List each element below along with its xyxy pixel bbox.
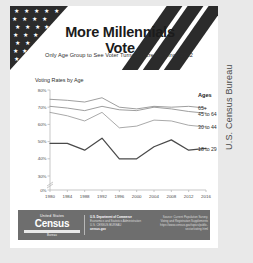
x-axis-tick-label: 1980 — [45, 194, 55, 199]
legend-title: Ages — [198, 92, 218, 98]
y-axis-tick-label: 70% — [38, 105, 47, 110]
x-axis-tick-label: 1988 — [80, 194, 90, 199]
line-chart: 0%30%40%50%60%70%80%19801984198819921996… — [34, 86, 212, 208]
x-axis-tick-label: 2000 — [132, 194, 142, 199]
logo-bureau: Bureau — [24, 233, 80, 237]
footer-band: United States Census Bureau U.S. Departm… — [18, 210, 210, 240]
series-line-30-to-44 — [50, 112, 206, 127]
x-axis-tick-label: 1984 — [62, 194, 72, 199]
legend-item-18-to-29: 18 to 29 — [198, 146, 217, 152]
page-subtitle: Only Age Group to See Voter Turnout Incr… — [36, 52, 202, 58]
infographic-card: ★★★★★★★★★★★★★★★★★★★★★ More Millennials V… — [10, 6, 218, 248]
header-band: ★★★★★★★★★★★★★★★★★★★★★ More Millennials V… — [10, 6, 218, 70]
x-axis-tick-label: 2012 — [184, 194, 194, 199]
legend-item-45-to-64: 45 to 64 — [198, 111, 217, 117]
logo-census: Census — [24, 218, 80, 229]
page-background: ★★★★★★★★★★★★★★★★★★★★★ More Millennials V… — [0, 0, 253, 263]
chart-canvas: 0%30%40%50%60%70%80%19801984198819921996… — [34, 86, 212, 208]
y-axis-tick-label: 50% — [38, 139, 47, 144]
x-axis-tick-label: 2004 — [149, 194, 159, 199]
y-axis-tick-label: 80% — [38, 88, 47, 93]
footer-source-line-3[interactable]: https://www.census.gov/topics/public-sec… — [146, 224, 208, 232]
footer-divider — [84, 215, 85, 235]
series-line-65+ — [50, 98, 206, 109]
y-axis-tick-label: 40% — [38, 156, 47, 161]
census-bureau-logo: United States Census Bureau — [24, 214, 80, 236]
footer-agency-line-4[interactable]: census.gov — [90, 228, 148, 232]
x-axis-tick-label: 2008 — [166, 194, 176, 199]
y-axis-tick-label: 0% — [40, 188, 46, 193]
chart-title: Voting Rates by Age — [35, 77, 84, 83]
chart-legend: Ages 65+45 to 6430 to 4418 to 29 — [198, 92, 218, 98]
x-axis-tick-label: 2016 — [201, 194, 211, 199]
series-line-18-to-29 — [50, 138, 206, 159]
footer-source-block: Source: Current Population Survey, Votin… — [146, 216, 208, 232]
legend-item-30-to-44: 30 to 44 — [198, 124, 217, 130]
footer-agency-block: U.S. Department of Commerce Economics an… — [90, 216, 148, 232]
logo-rule — [24, 230, 80, 233]
x-axis-tick-label: 1992 — [97, 194, 107, 199]
vertical-credit-text: U.S. Census Bureau — [224, 64, 234, 150]
y-axis-tick-label: 30% — [38, 174, 47, 179]
x-axis-tick-label: 1996 — [114, 194, 124, 199]
series-line-45-to-64 — [50, 106, 206, 113]
y-axis-tick-label: 60% — [38, 122, 47, 127]
